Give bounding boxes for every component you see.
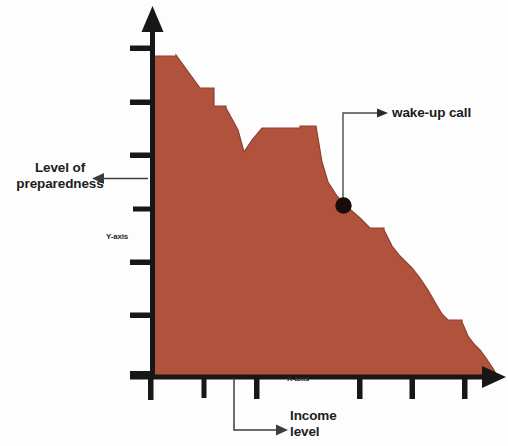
y-tick [130,260,154,266]
arrow-right-icon [276,425,288,436]
x-tick [462,377,468,399]
x-axis-name-label: X-axis [287,374,309,383]
arrow-up-icon [142,6,164,32]
y-axis-title-line2: preparedness [16,176,103,191]
x-tick [254,377,260,399]
x-axis-title: Incomelevel [290,408,382,439]
x-tick [202,377,207,398]
y-axis-name-label: Y-axis [106,232,128,241]
x-axis-title-line1: Income [290,408,337,423]
wake-up-call-label: wake-up call [392,105,471,121]
wakeup-leader-line [343,113,378,203]
x-tick [410,377,416,399]
area-fill-path [154,55,498,378]
x-tick [357,377,363,399]
arrow-right-icon [377,109,388,118]
y-tick [130,153,154,159]
x-axis-title-pointer [234,378,288,436]
area-series-preparedness [154,55,498,378]
chart-graphic [0,0,508,446]
y-axis-title-line1: Level of [35,160,85,175]
chart-canvas: Level ofpreparedness Incomelevel wake-up… [0,0,508,446]
y-tick [130,313,154,319]
y-tick [130,46,154,52]
x-tick [148,377,154,400]
y-axis-title: Level ofpreparedness [8,160,112,191]
y-tick [133,207,154,212]
y-tick [130,100,154,106]
x-axis-title-line2: level [290,424,320,439]
dot-marker-icon[interactable] [335,197,351,213]
wake-up-call-annotation[interactable] [335,109,388,214]
